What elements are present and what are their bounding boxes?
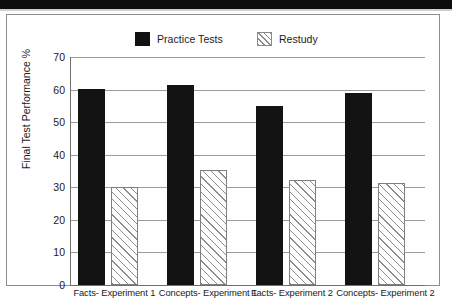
y-tick-label: 40	[41, 149, 65, 161]
figure-frame: Practice Tests Restudy Final Test Perfor…	[6, 14, 440, 286]
bar-restudy	[111, 187, 138, 285]
x-axis-tick-labels: Facts- Experiment 1Concepts- Experiment …	[70, 287, 425, 302]
x-tick-label: Facts- Experiment 1	[70, 287, 159, 298]
y-tick-label: 70	[41, 51, 65, 63]
legend-swatch-hatched-icon	[257, 32, 272, 46]
bar-practice	[345, 93, 372, 285]
scan-header-band	[0, 0, 452, 9]
y-tick-label: 30	[41, 181, 65, 193]
bar-practice	[78, 89, 105, 285]
bar-group	[70, 57, 425, 285]
bar-restudy	[289, 180, 316, 285]
y-axis-tick-labels: 010203040506070	[39, 57, 65, 285]
bar-practice	[167, 85, 194, 285]
legend-label-restudy: Restudy	[279, 33, 318, 45]
y-tick-label: 50	[41, 116, 65, 128]
legend-swatch-solid-icon	[135, 32, 150, 46]
x-tick-label: Facts- Experiment 2	[248, 287, 337, 298]
x-axis-line	[70, 285, 425, 286]
y-tick-label: 20	[41, 214, 65, 226]
chart-legend: Practice Tests Restudy	[135, 29, 365, 49]
legend-item-restudy: Restudy	[257, 32, 318, 46]
x-tick-label: Concepts- Experiment 1	[159, 287, 248, 298]
x-tick-label: Concepts- Experiment 2	[336, 287, 425, 298]
scan-header-shadow	[0, 9, 452, 11]
legend-item-practice-tests: Practice Tests	[135, 32, 223, 46]
legend-label-practice-tests: Practice Tests	[157, 33, 223, 45]
bar-practice	[256, 106, 283, 285]
plot-area	[70, 57, 425, 285]
y-tick-label: 60	[41, 84, 65, 96]
y-axis-title: Final Test Performance %	[20, 34, 32, 184]
y-tick-label: 0	[41, 279, 65, 291]
y-tick-label: 10	[41, 246, 65, 258]
bar-restudy	[200, 170, 227, 285]
bar-restudy	[378, 183, 405, 285]
